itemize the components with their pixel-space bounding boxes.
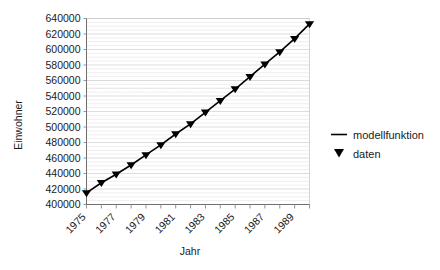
y-tick-label: 520000 bbox=[45, 105, 80, 117]
chart-figure: 4000004200004400004600004800005000005200… bbox=[0, 0, 440, 270]
y-tick-label: 620000 bbox=[45, 28, 80, 40]
y-tick-label: 560000 bbox=[45, 74, 80, 86]
y-tick-label: 420000 bbox=[45, 183, 80, 195]
y-tick-label: 440000 bbox=[45, 167, 80, 179]
y-tick-label: 640000 bbox=[45, 12, 80, 24]
y-tick-label: 500000 bbox=[45, 121, 80, 133]
chart-canvas: 4000004200004400004600004800005000005200… bbox=[0, 0, 440, 270]
y-tick-label: 400000 bbox=[45, 198, 80, 210]
y-tick-label: 540000 bbox=[45, 90, 80, 102]
x-axis-title: Jahr bbox=[180, 245, 201, 257]
legend-label-daten: daten bbox=[353, 148, 381, 160]
y-tick-label: 600000 bbox=[45, 43, 80, 55]
y-tick-label: 460000 bbox=[45, 152, 80, 164]
legend-label-modellfunktion: modellfunktion bbox=[353, 129, 424, 141]
y-axis-title: Einwohner bbox=[12, 100, 24, 150]
y-tick-label: 480000 bbox=[45, 136, 80, 148]
y-tick-label: 580000 bbox=[45, 59, 80, 71]
